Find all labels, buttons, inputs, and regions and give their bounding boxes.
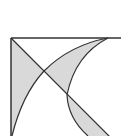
geometry-diagram [0, 0, 121, 136]
shaded-region-middle [44, 38, 108, 95]
